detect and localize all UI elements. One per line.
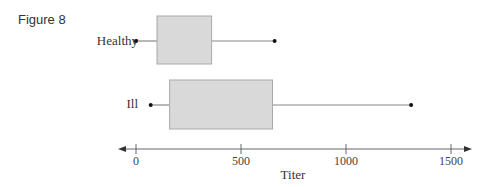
min-point (149, 103, 153, 107)
axis-arrow-left-icon (118, 146, 126, 152)
x-tick-label: 500 (232, 154, 250, 169)
x-tick-label: 0 (133, 154, 139, 169)
min-point (134, 39, 138, 43)
axis-arrow-right-icon (464, 146, 472, 152)
max-point (409, 103, 413, 107)
max-point (273, 39, 277, 43)
box-ill (170, 80, 273, 129)
x-tick-label: 1500 (439, 154, 463, 169)
x-tick-label: 1000 (334, 154, 358, 169)
box-healthy (157, 16, 212, 64)
x-axis-title: Titer (281, 167, 306, 183)
